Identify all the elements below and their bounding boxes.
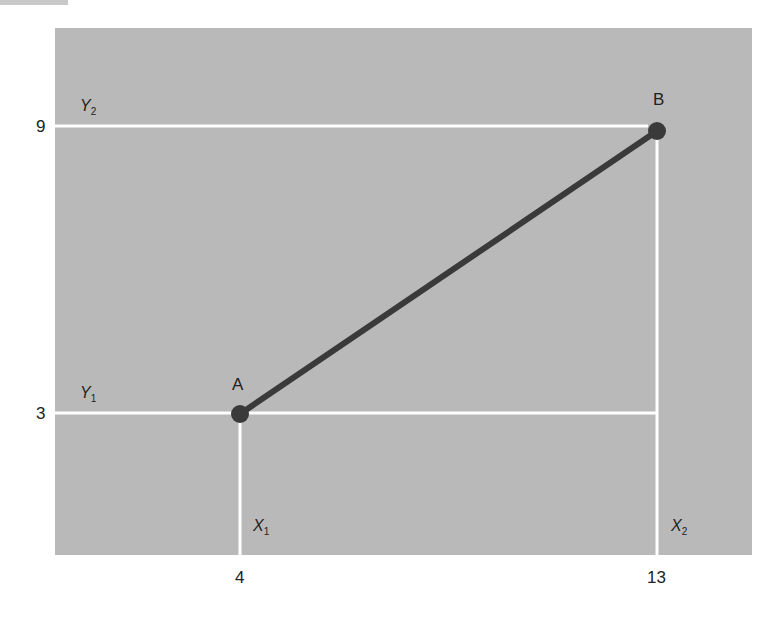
point-b-marker <box>648 122 666 140</box>
y1-label-sub: 1 <box>91 393 97 404</box>
point-b-label: B <box>653 90 664 110</box>
y-tick-9: 9 <box>36 117 45 137</box>
x2-label-text: X <box>671 517 682 534</box>
y1-label-text: Y <box>80 384 91 401</box>
x2-label-sub: 2 <box>682 526 688 537</box>
x2-label: X2 <box>671 517 687 537</box>
point-a-label: A <box>232 375 243 395</box>
x1-label-sub: 1 <box>264 526 270 537</box>
x-tick-13: 13 <box>647 568 666 588</box>
x1-label: X1 <box>253 517 269 537</box>
diagram-svg <box>0 0 782 624</box>
y2-label-text: Y <box>80 97 91 114</box>
y-tick-3: 3 <box>36 404 45 424</box>
point-a-marker <box>231 405 249 423</box>
y2-label: Y2 <box>80 97 96 117</box>
y2-label-sub: 2 <box>91 106 97 117</box>
x1-label-text: X <box>253 517 264 534</box>
y1-label: Y1 <box>80 384 96 404</box>
segment-ab <box>240 131 657 414</box>
x-tick-4: 4 <box>235 568 244 588</box>
